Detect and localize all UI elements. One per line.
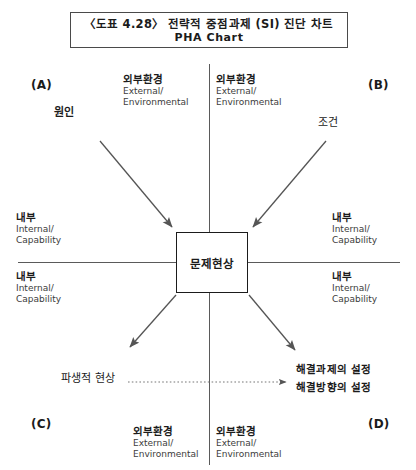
central-problem-box: 문제현상 — [176, 232, 248, 293]
horizontal-axis-left — [18, 262, 176, 263]
axis-label-top-left: 외부환경 External/ Environmental — [123, 73, 188, 108]
vertical-axis-upper — [209, 64, 210, 232]
axis-label-bottom-right-en1: External/ — [216, 438, 281, 449]
quadrant-label-b: (B) — [368, 78, 389, 92]
node-label-cause: 원인 — [54, 103, 74, 119]
axis-label-bottom-right-en2: Environmental — [216, 449, 281, 460]
node-label-derived-phenomenon: 파생적 현상 — [61, 369, 116, 385]
pha-chart-figure: 〈도표 4.28〉 전략적 중점과제 (SI) 진단 차트 PHA Chart … — [0, 0, 416, 470]
vertical-axis-lower — [209, 293, 210, 465]
axis-label-top-right-ko: 외부환경 — [216, 73, 281, 86]
axis-label-left-upper-en2: Capability — [16, 235, 61, 246]
axis-label-left-lower-en1: Internal/ — [16, 283, 61, 294]
axis-label-bottom-left: 외부환경 External/ Environmental — [133, 425, 198, 460]
axis-label-top-right: 외부환경 External/ Environmental — [216, 73, 281, 108]
figure-title-box: 〈도표 4.28〉 전략적 중점과제 (SI) 진단 차트 PHA Chart — [70, 12, 348, 48]
axis-label-top-right-en2: Environmental — [216, 97, 281, 108]
axis-label-bottom-right: 외부환경 External/ Environmental — [216, 425, 281, 460]
axis-label-right-upper-ko: 내부 — [332, 211, 377, 224]
axis-label-right-upper: 내부 Internal/ Capability — [332, 211, 377, 246]
arrow-cause-to-problem — [100, 141, 172, 227]
quadrant-label-a: (A) — [31, 78, 52, 92]
arrow-problem-to-derived — [130, 295, 176, 347]
axis-label-left-upper-en1: Internal/ — [16, 224, 61, 235]
axis-label-right-lower-ko: 내부 — [332, 270, 377, 283]
arrow-condition-to-problem — [253, 141, 326, 227]
axis-label-left-upper: 내부 Internal/ Capability — [16, 211, 61, 246]
axis-label-right-lower-en1: Internal/ — [332, 283, 377, 294]
node-label-outcome-direction: 해결방향의 설정 — [296, 378, 371, 396]
axis-label-left-lower: 내부 Internal/ Capability — [16, 270, 61, 305]
axis-label-right-upper-en1: Internal/ — [332, 224, 377, 235]
axis-label-top-left-en2: Environmental — [123, 97, 188, 108]
axis-label-bottom-right-ko: 외부환경 — [216, 425, 281, 438]
quadrant-label-d: (D) — [368, 417, 390, 431]
horizontal-axis-right — [248, 262, 400, 263]
quadrant-label-c: (C) — [31, 417, 51, 431]
arrow-problem-to-outcome — [249, 295, 295, 350]
axis-label-top-left-en1: External/ — [123, 86, 188, 97]
axis-label-bottom-left-en1: External/ — [133, 438, 198, 449]
axis-label-left-lower-en2: Capability — [16, 294, 61, 305]
axis-label-bottom-left-ko: 외부환경 — [133, 425, 198, 438]
node-label-condition: 조건 — [318, 113, 338, 129]
axis-label-left-upper-ko: 내부 — [16, 211, 61, 224]
figure-title-korean: 〈도표 4.28〉 전략적 중점과제 (SI) 진단 차트 — [84, 17, 333, 31]
axis-label-right-lower: 내부 Internal/ Capability — [332, 270, 377, 305]
node-label-outcome-task: 해결과제의 설정 — [296, 360, 371, 378]
axis-label-bottom-left-en2: Environmental — [133, 449, 198, 460]
axis-label-right-lower-en2: Capability — [332, 294, 377, 305]
axis-label-top-left-ko: 외부환경 — [123, 73, 188, 86]
axis-label-left-lower-ko: 내부 — [16, 270, 61, 283]
central-problem-label: 문제현상 — [190, 255, 235, 271]
axis-label-top-right-en1: External/ — [216, 86, 281, 97]
axis-label-right-upper-en2: Capability — [332, 235, 377, 246]
figure-title-english: PHA Chart — [174, 31, 243, 44]
